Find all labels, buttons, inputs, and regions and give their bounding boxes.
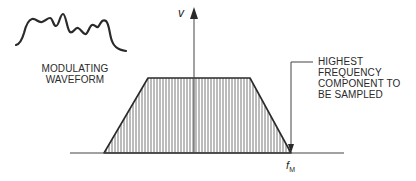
annotation-line2: FREQUENCY <box>318 67 400 78</box>
spectrum-trapezoid <box>104 78 291 153</box>
waveform-label-line2: WAVEFORM <box>40 74 110 85</box>
fm-label-subscript: M <box>289 166 295 173</box>
annotation-line1: HIGHEST <box>318 56 400 67</box>
modulating-waveform-icon <box>16 14 126 51</box>
annotation-pointer <box>291 62 313 146</box>
axis-arrow-up-icon <box>190 7 198 19</box>
waveform-label-line1: MODULATING <box>40 63 110 74</box>
annotation-line4: BE SAMPLED <box>318 89 400 100</box>
waveform-label: MODULATING WAVEFORM <box>40 63 110 85</box>
annotation-text: HIGHEST FREQUENCY COMPONENT TO BE SAMPLE… <box>318 56 400 100</box>
y-axis-label: v <box>178 8 184 19</box>
annotation-line3: COMPONENT TO <box>318 78 400 89</box>
fm-label: fM <box>286 160 295 175</box>
